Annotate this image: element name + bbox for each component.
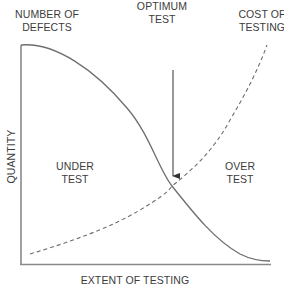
over-test-line2: TEST — [210, 173, 270, 186]
over-test-line1: OVER — [210, 160, 270, 173]
testing-tradeoff-diagram: NUMBER OF DEFECTS OPTIMUM TEST COST OF T… — [0, 0, 284, 291]
y-axis-label: QUANTITY — [5, 122, 18, 192]
cost-curve — [30, 45, 267, 254]
defects-label-line1: NUMBER OF — [7, 8, 87, 21]
optimum-label: OPTIMUM TEST — [122, 0, 202, 26]
defects-label: NUMBER OF DEFECTS — [7, 8, 87, 34]
optimum-label-line2: TEST — [122, 13, 202, 26]
diagram-canvas — [0, 0, 284, 291]
over-test-label: OVER TEST — [210, 160, 270, 186]
under-test-line2: TEST — [45, 173, 105, 186]
cost-label: COST OF TESTING — [225, 8, 284, 34]
under-test-label: UNDER TEST — [45, 160, 105, 186]
cost-label-line2: TESTING — [225, 21, 284, 34]
defects-curve — [21, 45, 270, 261]
cost-label-line1: COST OF — [225, 8, 284, 21]
under-test-line1: UNDER — [45, 160, 105, 173]
x-axis-label: EXTENT OF TESTING — [60, 274, 210, 287]
optimum-label-line1: OPTIMUM — [122, 0, 202, 13]
defects-label-line2: DEFECTS — [7, 21, 87, 34]
